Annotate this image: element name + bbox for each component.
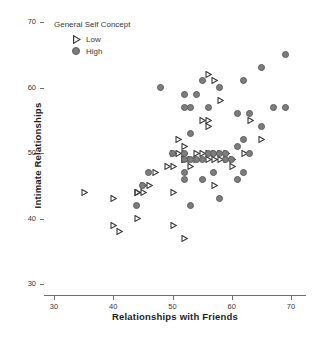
data-point-high	[205, 104, 212, 111]
legend-item-high[interactable]: High	[70, 45, 184, 57]
data-point-high	[216, 84, 223, 91]
y-tick-label: 50	[0, 149, 36, 157]
legend: General Self Concept LowHigh	[54, 20, 184, 57]
data-point-high	[187, 104, 194, 111]
data-point-high	[258, 123, 265, 130]
data-point-high	[133, 202, 140, 209]
scatter-plot-figure: Intimate Relationships Relationships wit…	[0, 0, 316, 338]
data-point-high	[199, 156, 206, 163]
legend-entries: LowHigh	[54, 33, 184, 57]
x-tick-label: 70	[278, 302, 304, 311]
legend-item-low[interactable]: Low	[70, 33, 184, 45]
data-point-high	[240, 169, 247, 176]
x-tick-label: 40	[100, 302, 126, 311]
x-tick	[173, 296, 174, 300]
y-tick-label: 60	[0, 84, 36, 92]
data-point-high	[199, 176, 206, 183]
x-tick-label: 60	[219, 302, 245, 311]
y-tick-label-text: 60	[14, 84, 36, 92]
data-point-high	[187, 130, 194, 137]
y-tick-label-text: 30	[14, 280, 36, 288]
x-axis-line	[44, 295, 306, 296]
data-point-high	[199, 77, 206, 84]
data-point-high	[240, 136, 247, 143]
data-point-high	[234, 176, 241, 183]
y-tick-label: 40	[0, 215, 36, 223]
data-point-high	[181, 91, 188, 98]
y-tick-label-text: 50	[14, 149, 36, 157]
data-point-high	[210, 169, 217, 176]
data-point-high	[282, 51, 289, 58]
x-tick-label: 30	[41, 302, 67, 311]
legend-item-label: High	[86, 47, 102, 56]
data-point-high	[240, 77, 247, 84]
legend-item-label: Low	[86, 35, 101, 44]
x-axis-title: Relationships with Friends	[44, 311, 306, 322]
data-point-high	[216, 195, 223, 202]
legend-title: General Self Concept	[54, 20, 184, 29]
y-tick-label-text: 70	[14, 18, 36, 26]
y-tick-label-text: 40	[14, 215, 36, 223]
data-point-high	[234, 110, 241, 117]
data-point-high	[193, 91, 200, 98]
circle-icon	[70, 45, 82, 57]
x-tick	[232, 296, 233, 300]
y-tick-label: 70	[0, 18, 36, 26]
data-point-high	[187, 202, 194, 209]
x-tick	[291, 296, 292, 300]
data-point-high	[181, 176, 188, 183]
x-tick	[54, 296, 55, 300]
data-point-high	[246, 150, 253, 157]
figure-caption-sliver	[0, 329, 316, 338]
x-tick	[113, 296, 114, 300]
data-point-high	[258, 64, 265, 71]
data-point-high	[157, 84, 164, 91]
y-tick-label: 30	[0, 280, 36, 288]
data-point-high	[282, 104, 289, 111]
x-tick-label: 50	[160, 302, 186, 311]
data-point-high	[270, 104, 277, 111]
triangle-right-icon	[70, 33, 82, 45]
data-point-high	[169, 150, 176, 157]
